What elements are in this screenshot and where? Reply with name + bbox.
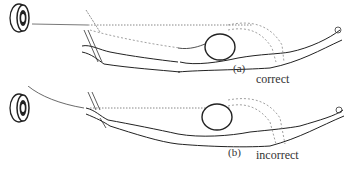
target-icon [10, 4, 29, 32]
archer-correct-illustration [0, 0, 354, 86]
target-icon [10, 94, 29, 122]
panel-a-correct: (a) correct [0, 0, 354, 86]
panel-b-incorrect: (b) incorrect [0, 86, 354, 172]
archer-incorrect-illustration [0, 86, 354, 172]
panel-label: (b) [228, 146, 241, 158]
panel-caption: incorrect [256, 148, 299, 163]
panel-caption: correct [256, 72, 289, 87]
panel-label: (a) [233, 62, 245, 74]
